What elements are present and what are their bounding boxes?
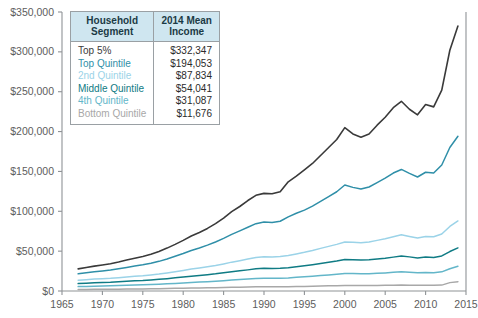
legend-row: 2nd Quintile$87,834 [71, 70, 220, 83]
x-tick-label: 1970 [91, 298, 115, 310]
x-tick-label: 2015 [454, 298, 478, 310]
legend-row: 4th Quintile$31,087 [71, 95, 220, 108]
x-tick-label: 2005 [374, 298, 398, 310]
legend-row: Top Quintile$194,053 [71, 58, 220, 71]
legend-income-value: $332,347 [154, 42, 220, 58]
legend-income-value: $31,087 [154, 95, 220, 108]
y-tick-label: $350,000 [10, 6, 54, 18]
legend-header-income: 2014 Mean Income [154, 12, 220, 42]
legend-income-value: $54,041 [154, 83, 220, 96]
legend-row: Top 5%$332,347 [71, 42, 220, 58]
legend-row: Bottom Quintile$11,676 [71, 108, 220, 124]
legend-income-value: $87,834 [154, 70, 220, 83]
legend-header-row: Household Segment 2014 Mean Income [71, 12, 220, 42]
legend-income-value: $194,053 [154, 58, 220, 71]
legend-segment-label: Middle Quintile [71, 83, 154, 96]
legend-income-value: $11,676 [154, 108, 220, 124]
y-tick-label: $0 [42, 285, 54, 297]
x-tick-label: 2010 [414, 298, 438, 310]
legend-segment-label: Top Quintile [71, 58, 154, 71]
x-tick-label: 2000 [333, 298, 357, 310]
x-tick-label: 1965 [50, 298, 74, 310]
x-tick-label: 1975 [131, 298, 155, 310]
x-tick-label: 1995 [293, 298, 317, 310]
x-tick-label: 1980 [172, 298, 196, 310]
legend-row: Middle Quintile$54,041 [71, 83, 220, 96]
y-tick-label: $250,000 [10, 85, 54, 97]
y-tick-label: $50,000 [16, 245, 54, 257]
legend-segment-label: 4th Quintile [71, 95, 154, 108]
x-tick-label: 1985 [212, 298, 236, 310]
series-line [78, 136, 458, 274]
income-by-household-segment-chart: $0$50,000$100,000$150,000$200,000$250,00… [0, 0, 478, 318]
legend-table: Household Segment 2014 Mean Income Top 5… [70, 11, 220, 125]
legend-header-segment: Household Segment [71, 12, 154, 42]
y-tick-label: $300,000 [10, 45, 54, 57]
x-tick-label: 1990 [252, 298, 276, 310]
y-tick-label: $200,000 [10, 125, 54, 137]
legend-segment-label: Bottom Quintile [71, 108, 154, 124]
y-tick-label: $100,000 [10, 205, 54, 217]
legend-segment-label: 2nd Quintile [71, 70, 154, 83]
legend-segment-label: Top 5% [71, 42, 154, 58]
y-tick-label: $150,000 [10, 165, 54, 177]
